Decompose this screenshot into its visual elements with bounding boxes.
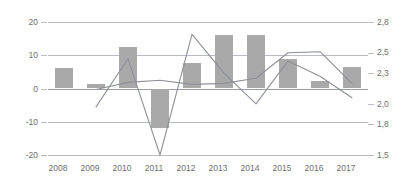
y-right-tick-label: 2,3 (377, 69, 389, 78)
x-tick-label-2017: 2017 (330, 163, 362, 173)
tick-mark (368, 53, 374, 54)
bar-2008 (55, 68, 73, 89)
tick-mark (41, 122, 47, 123)
plot-area (48, 22, 368, 155)
bar-2011 (151, 89, 169, 129)
tick-mark (41, 22, 47, 23)
x-tick-label-2013: 2013 (202, 163, 234, 173)
y-right-tick-label: 2,0 (377, 100, 389, 109)
x-tick-label-2012: 2012 (170, 163, 202, 173)
y-left-tick-label: -20 (26, 151, 38, 160)
tick-mark (41, 55, 47, 56)
y-right-tick-label: 2,5 (377, 48, 389, 57)
bar-2013 (215, 35, 233, 88)
tick-mark (368, 22, 374, 23)
y-left-tick-label: 20 (29, 18, 38, 27)
x-tick-label-2016: 2016 (298, 163, 330, 173)
chart-container: 20 10 0 -10 -20 2,8 2,5 2,3 2,0 1,8 1,5 (0, 0, 415, 193)
gridline (48, 22, 368, 23)
x-tick-label-2008: 2008 (42, 163, 74, 173)
x-tick-label-2010: 2010 (106, 163, 138, 173)
gridline (48, 55, 368, 56)
y-right-tick-label: 1,8 (377, 120, 389, 129)
y-axis-left: 20 10 0 -10 -20 (0, 0, 38, 193)
y-right-tick-label: 2,8 (377, 18, 389, 27)
gridline (48, 155, 368, 156)
tick-mark (41, 155, 47, 156)
bar-2012 (183, 63, 201, 88)
gridline (48, 122, 368, 123)
y-left-tick-label: 10 (29, 51, 38, 60)
bar-2009 (87, 84, 105, 89)
x-tick-label-2014: 2014 (234, 163, 266, 173)
tick-mark (41, 89, 47, 90)
x-tick-label-2011: 2011 (138, 163, 170, 173)
tick-mark (368, 155, 374, 156)
bar-2016 (311, 81, 329, 88)
y-left-tick-label: -10 (26, 118, 38, 127)
bar-2010 (119, 47, 137, 89)
bar-2014 (247, 35, 265, 88)
tick-mark (368, 124, 374, 125)
y-right-tick-label: 1,5 (377, 151, 389, 160)
gridline-zero (48, 89, 368, 90)
tick-mark (368, 104, 374, 105)
bar-2015 (279, 59, 297, 89)
tick-mark (368, 73, 374, 74)
x-tick-label-2015: 2015 (266, 163, 298, 173)
y-axis-right: 2,8 2,5 2,3 2,0 1,8 1,5 (377, 0, 415, 193)
x-tick-label-2009: 2009 (74, 163, 106, 173)
y-left-tick-label: 0 (33, 85, 38, 94)
bar-2017 (343, 67, 361, 89)
